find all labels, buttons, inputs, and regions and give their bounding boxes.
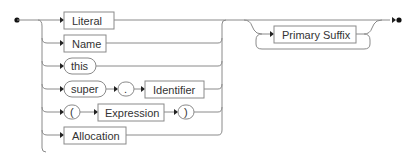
label-super: super [71, 83, 99, 95]
label-expression: Expression [105, 107, 159, 119]
label-primary-suffix: Primary Suffix [282, 29, 351, 41]
label-literal: Literal [72, 15, 102, 27]
label-lparen: ( [70, 106, 74, 118]
railroad-diagram: Literal Name this super . Identifier ( E… [0, 0, 413, 157]
end-point [396, 17, 401, 22]
label-allocation: Allocation [72, 130, 120, 142]
label-name: Name [72, 38, 101, 50]
label-this: this [71, 60, 89, 72]
label-dot: . [124, 83, 127, 95]
label-rparen: ) [184, 106, 188, 118]
label-identifier: Identifier [153, 84, 196, 96]
